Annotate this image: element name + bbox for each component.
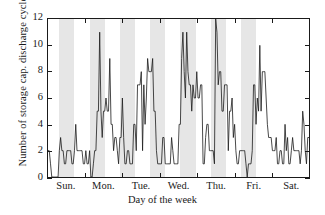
x-axis-tick <box>122 18 123 23</box>
y-axis-tick <box>305 125 310 126</box>
x-axis-tick <box>272 173 273 178</box>
y-axis-tick <box>47 71 52 72</box>
y-axis-tick <box>47 45 52 46</box>
y-axis-tick <box>47 98 52 99</box>
y-axis-tick <box>47 178 52 179</box>
y-axis-tick <box>305 18 310 19</box>
x-axis-tick-label: Sat. <box>261 180 321 191</box>
y-axis-tick <box>47 18 52 19</box>
y-axis-tick <box>305 178 310 179</box>
chart-figure: Number of storage cap. discharge cycles … <box>0 0 325 215</box>
y-axis-tick <box>47 125 52 126</box>
y-axis-tick <box>305 45 310 46</box>
y-axis-tick-label: 6 <box>0 92 43 102</box>
x-axis-tick <box>160 173 161 178</box>
x-axis-tick <box>235 173 236 178</box>
y-axis-tick-label: 12 <box>0 12 43 22</box>
y-axis-tick <box>305 151 310 152</box>
y-axis-tick-label: 8 <box>0 65 43 75</box>
y-axis-tick <box>305 98 310 99</box>
y-axis-tick <box>47 151 52 152</box>
x-axis-title: Day of the week <box>0 194 325 205</box>
y-axis-tick-label: 10 <box>0 39 43 49</box>
x-axis-tick <box>272 18 273 23</box>
x-axis-tick <box>197 18 198 23</box>
y-axis-tick-label: 4 <box>0 119 43 129</box>
x-axis-tick <box>160 18 161 23</box>
x-axis-tick <box>85 173 86 178</box>
x-axis-tick <box>235 18 236 23</box>
discharge-cycles-line <box>48 19 309 177</box>
y-axis-tick <box>305 71 310 72</box>
y-axis-title: Number of storage cap. discharge cycles <box>17 0 28 167</box>
x-axis-tick <box>122 173 123 178</box>
x-axis-tick <box>85 18 86 23</box>
y-axis-tick-label: 2 <box>0 145 43 155</box>
plot-area <box>47 18 310 178</box>
x-axis-tick <box>197 173 198 178</box>
